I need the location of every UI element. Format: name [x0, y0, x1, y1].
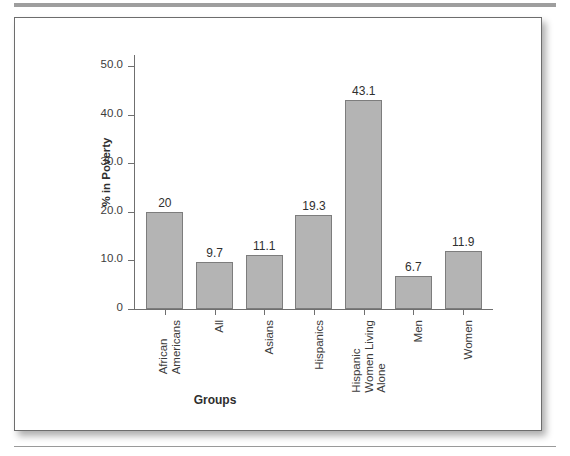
y-axis-tick-label: 10.0: [101, 252, 123, 264]
x-axis-label-line: Hispanic: [350, 320, 363, 393]
x-axis-tick: [364, 309, 365, 315]
x-axis-tick: [215, 309, 216, 315]
x-axis-tick: [314, 309, 315, 315]
x-axis-label-line: African: [157, 320, 170, 374]
x-axis-tick: [463, 309, 464, 315]
x-axis-tick: [264, 309, 265, 315]
x-axis-label: Asians: [263, 320, 276, 355]
x-axis-label-line: Men: [412, 320, 425, 342]
y-axis-title: % in Poverty: [100, 137, 112, 206]
y-axis-tick-label: 50.0: [101, 58, 123, 70]
y-axis-tick: 20.0: [128, 212, 134, 213]
bar: 19.3: [295, 215, 332, 309]
x-axis-label-line: Women: [462, 320, 475, 359]
y-axis-line: [134, 55, 135, 309]
bar-chart: 010.020.030.040.050.0 % in Poverty 209.7…: [15, 18, 543, 432]
figure-box: 010.020.030.040.050.0 % in Poverty 209.7…: [14, 17, 542, 431]
x-axis-label-line: All: [213, 320, 226, 333]
y-axis-tick: 40.0: [128, 115, 134, 116]
y-axis-tick: 10.0: [128, 260, 134, 261]
bar: 11.1: [246, 255, 283, 309]
bar: 9.7: [196, 262, 233, 309]
bar-value-label: 6.7: [405, 260, 422, 274]
x-axis-label-line: Hispanics: [313, 320, 326, 370]
page-bottom-rule: [14, 446, 556, 447]
y-axis-tick: 50.0: [128, 66, 134, 67]
x-axis-label-line: Women Living: [362, 320, 375, 393]
bar-value-label: 11.1: [253, 239, 275, 253]
x-axis-title: Groups: [15, 393, 415, 407]
x-axis-label-line: Americans: [170, 320, 183, 374]
bar-value-label: 20: [158, 196, 171, 210]
x-axis-label: All: [213, 320, 226, 333]
bar: 43.1: [345, 100, 382, 309]
bar: 20: [146, 212, 183, 309]
x-axis-tick: [413, 309, 414, 315]
x-axis-label: HispanicWomen LivingAlone: [350, 320, 388, 393]
y-axis-tick-label: 40.0: [101, 107, 123, 119]
y-axis-tick: 0: [128, 309, 134, 310]
x-axis-label-line: Alone: [375, 320, 388, 393]
x-axis-label-line: Asians: [263, 320, 276, 355]
x-axis-label: Women: [462, 320, 475, 359]
bar-value-label: 9.7: [206, 246, 223, 260]
y-axis-tick: 30.0: [128, 163, 134, 164]
bar: 11.9: [445, 251, 482, 309]
x-axis-label: AfricanAmericans: [157, 320, 182, 374]
page-top-rule: [14, 3, 556, 7]
x-axis-label: Men: [412, 320, 425, 342]
bar-value-label: 19.3: [302, 199, 325, 213]
bar: 6.7: [395, 276, 432, 309]
bar-value-label: 43.1: [352, 84, 375, 98]
y-axis-tick-label: 0: [117, 301, 123, 313]
bar-value-label: 11.9: [452, 235, 474, 249]
x-axis-tick: [165, 309, 166, 315]
x-axis-label: Hispanics: [313, 320, 326, 370]
